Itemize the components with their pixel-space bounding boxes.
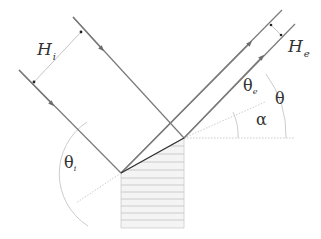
exit-rays — [121, 10, 295, 173]
label-theta-i: θi — [64, 153, 77, 173]
label-theta-e: θe — [243, 76, 258, 96]
surface-block — [121, 138, 184, 228]
theta-i-arc — [59, 122, 88, 226]
dim-dot — [270, 24, 273, 27]
dim-dot — [280, 34, 283, 37]
dim-dot — [33, 81, 36, 84]
label-H-e: He — [287, 36, 310, 59]
width-dimensions — [34, 25, 281, 82]
label-alpha: α — [256, 110, 267, 129]
label-H-i: Hi — [36, 39, 56, 62]
exit-width-line — [271, 25, 281, 35]
dim-dot — [80, 31, 83, 34]
label-theta: θ — [275, 89, 285, 108]
reflection-diagram: Hi He θe θ α θi — [0, 0, 321, 239]
